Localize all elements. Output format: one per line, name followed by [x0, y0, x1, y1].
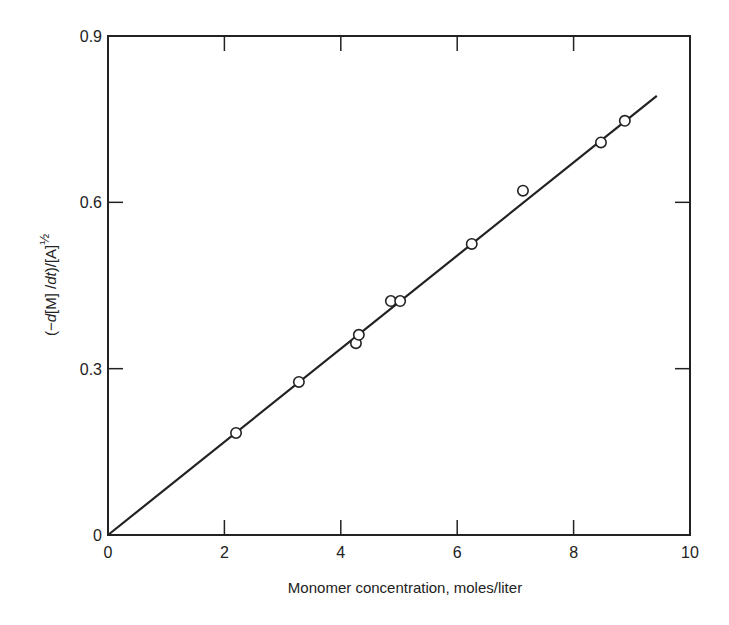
axis-ticks: [108, 36, 690, 535]
fit-line-segment: [108, 96, 657, 535]
data-point: [620, 116, 630, 126]
plot-frame: [108, 36, 690, 535]
chart: 0246810 00.30.60.9 Monomer concentration…: [0, 0, 729, 625]
x-tick-label: 8: [569, 544, 578, 561]
y-tick-label: 0.6: [80, 194, 102, 211]
y-tick-label: 0.3: [80, 361, 102, 378]
data-point: [518, 185, 528, 195]
data-point: [231, 428, 241, 438]
plot-border: [108, 36, 690, 535]
x-tick-label: 4: [336, 544, 345, 561]
data-point: [294, 377, 304, 387]
x-tick-label: 6: [453, 544, 462, 561]
y-tick-label: 0.9: [80, 28, 102, 45]
x-tick-label: 0: [104, 544, 113, 561]
fit-line: [108, 96, 657, 535]
data-point: [596, 137, 606, 147]
x-tick-labels: 0246810: [104, 544, 699, 561]
x-tick-label: 10: [681, 544, 699, 561]
y-tick-label: 0: [93, 527, 102, 544]
x-axis-label: Monomer concentration, moles/liter: [288, 579, 522, 596]
y-axis-label: (−d[M] /dt)/[A]½: [37, 234, 59, 336]
data-point: [467, 239, 477, 249]
data-point: [395, 296, 405, 306]
y-tick-labels: 00.30.60.9: [80, 28, 102, 544]
x-tick-label: 2: [220, 544, 229, 561]
data-point: [354, 330, 364, 340]
